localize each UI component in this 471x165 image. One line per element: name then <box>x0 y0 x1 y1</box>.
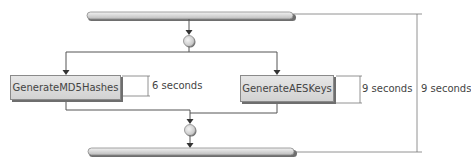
join-connector <box>66 101 277 124</box>
split-connector <box>63 47 281 76</box>
flow-arrow-top <box>186 19 193 35</box>
decision-node-top <box>184 36 196 48</box>
duration-label-md5: 6 seconds <box>152 80 202 92</box>
total-duration-label: 9 seconds <box>421 83 471 95</box>
activity-generate-aes-keys: GenerateAESKeys <box>240 75 334 102</box>
duration-label-aes: 9 seconds <box>362 83 412 95</box>
decision-node-bottom <box>185 125 197 149</box>
activity-label: GenerateAESKeys <box>242 83 332 94</box>
fork-bar <box>87 12 296 21</box>
duration-bracket-md5 <box>122 76 150 96</box>
activity-label: GenerateMD5Hashes <box>13 82 119 93</box>
join-bar <box>88 148 297 157</box>
activity-generate-md5-hashes: GenerateMD5Hashes <box>10 75 121 100</box>
duration-bracket-aes <box>336 76 362 103</box>
